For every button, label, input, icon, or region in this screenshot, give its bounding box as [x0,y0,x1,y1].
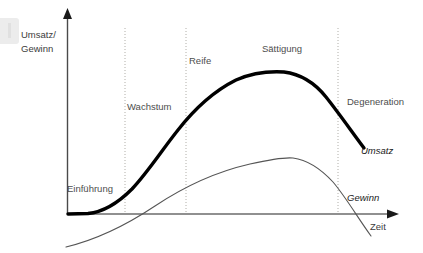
phase-label-einfuehrung: Einführung [67,183,113,195]
product-lifecycle-chart: Umsatz/ Gewinn Zeit Einführung Wachstum … [0,0,423,253]
x-axis-arrowhead [387,210,399,219]
curve-label-umsatz: Umsatz [361,145,393,157]
phase-label-wachstum: Wachstum [127,101,172,113]
phase-label-degeneration: Degeneration [347,96,404,108]
phase-label-reife: Reife [189,55,211,67]
curve-label-gewinn: Gewinn [347,192,379,204]
phase-label-saettigung: Sättigung [262,43,302,55]
gewinn-curve [66,158,371,247]
y-axis-label-line2: Gewinn [21,43,53,55]
x-axis-label: Zeit [370,221,386,233]
y-axis-label-line1: Umsatz/ [21,29,56,41]
chart-canvas [0,0,423,253]
y-axis-arrowhead [63,8,72,19]
